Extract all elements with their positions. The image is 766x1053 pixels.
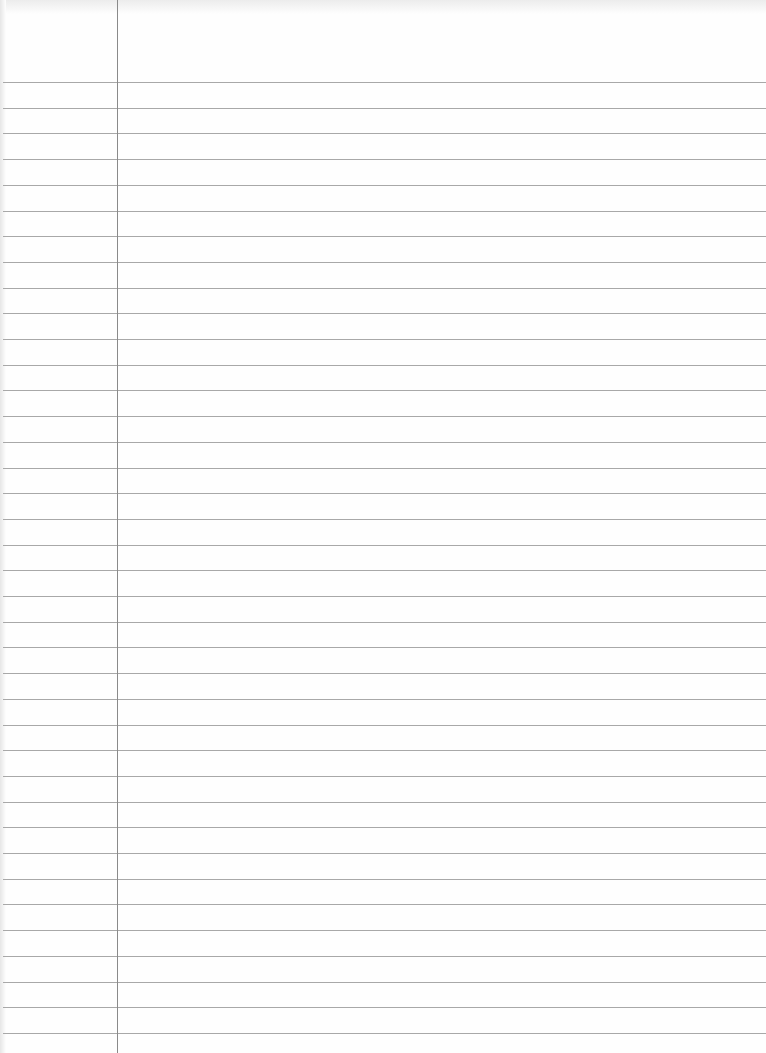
left-edge-shadow (0, 0, 6, 1053)
margin-line (117, 0, 118, 1053)
top-edge-shadow (0, 0, 766, 14)
notebook-page (0, 0, 766, 1053)
